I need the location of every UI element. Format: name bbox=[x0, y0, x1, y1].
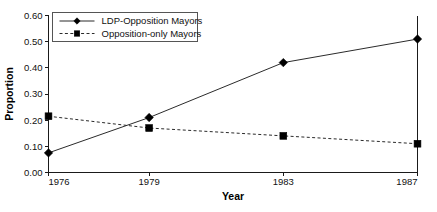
series-line bbox=[49, 116, 418, 143]
data-point-marker bbox=[414, 140, 421, 147]
data-point-marker bbox=[145, 113, 153, 121]
y-tick-label: 0.20 bbox=[24, 115, 43, 126]
y-tick-label: 0.10 bbox=[24, 141, 43, 152]
y-tick-label: 0.00 bbox=[24, 167, 43, 178]
x-axis-title: Year bbox=[222, 190, 244, 202]
x-tick-label: 1979 bbox=[139, 176, 160, 187]
y-tick-label: 0.30 bbox=[24, 88, 43, 99]
series-1 bbox=[44, 35, 421, 157]
legend-marker bbox=[74, 31, 79, 36]
data-point-marker bbox=[413, 35, 421, 43]
y-tick-label: 0.50 bbox=[24, 36, 43, 47]
data-point-marker bbox=[44, 149, 52, 157]
y-tick-label: 0.60 bbox=[24, 10, 43, 21]
data-point-marker bbox=[146, 125, 153, 132]
line-chart: 0.000.100.200.300.400.500.60197619791983… bbox=[0, 0, 437, 212]
legend-label: Opposition-only Mayors bbox=[102, 28, 202, 39]
data-point-marker bbox=[279, 58, 287, 66]
y-tick-label: 0.40 bbox=[24, 62, 43, 73]
x-tick-label: 1983 bbox=[273, 176, 294, 187]
x-tick-label: 1987 bbox=[396, 176, 417, 187]
chart-canvas: 0.000.100.200.300.400.500.60197619791983… bbox=[0, 0, 437, 212]
x-axis-ticks: 1976197919831987 bbox=[49, 173, 418, 188]
series-2 bbox=[45, 113, 421, 147]
y-axis-title: Proportion bbox=[3, 67, 15, 121]
data-point-marker bbox=[280, 132, 287, 139]
x-tick-label: 1976 bbox=[49, 176, 70, 187]
series-line bbox=[49, 39, 418, 153]
legend-label: LDP-Opposition Mayors bbox=[102, 15, 203, 26]
legend: LDP-Opposition MayorsOpposition-only May… bbox=[53, 13, 203, 42]
data-point-marker bbox=[45, 113, 52, 120]
